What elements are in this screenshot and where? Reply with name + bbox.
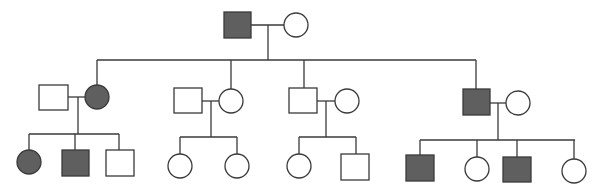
individual-II-1-male [39, 85, 68, 110]
individual-III-3-male [106, 150, 134, 176]
individual-III-10-affected-male [503, 157, 531, 182]
family-2 [168, 88, 249, 178]
individual-III-2-affected-male [62, 150, 89, 176]
individual-II-3-male [174, 88, 202, 113]
individual-II-8-female [506, 91, 530, 115]
individual-III-8-affected-male [406, 155, 434, 181]
individual-III-11-female [562, 159, 586, 183]
individual-II-6-female [335, 89, 359, 113]
individual-II-5-male [289, 88, 317, 113]
individual-III-1-affected-female [17, 150, 41, 174]
individual-III-6-female [287, 154, 311, 178]
individual-II-4-female [219, 89, 243, 113]
family-4 [406, 89, 586, 183]
individual-III-5-female [225, 154, 249, 178]
individual-III-4-female [168, 154, 192, 178]
individual-II-7-affected-male [463, 89, 490, 115]
individual-II-2-affected-female [85, 85, 109, 109]
individual-I-2-female [284, 13, 308, 37]
family-3 [287, 88, 369, 180]
pedigree-chart [0, 0, 606, 188]
individual-III-7-male [341, 154, 369, 180]
individual-III-9-female [465, 157, 489, 181]
family-1 [17, 85, 134, 176]
generation-1 [224, 12, 308, 60]
individual-I-1-affected-male [224, 12, 251, 38]
